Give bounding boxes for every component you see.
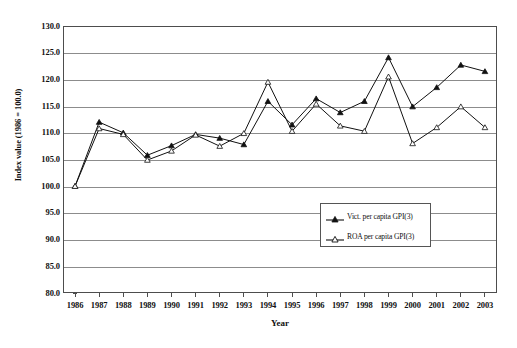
x-tick-mark <box>243 293 244 297</box>
y-tick-label: 125.0 <box>18 48 60 57</box>
x-axis-title: Year <box>63 318 497 328</box>
open-triangle-marker-icon <box>326 231 344 241</box>
open-triangle-marker-icon <box>386 74 392 79</box>
open-triangle-marker-icon <box>410 141 416 146</box>
open-triangle-marker-icon <box>265 79 271 84</box>
x-tick-mark <box>195 293 196 297</box>
open-triangle-marker-icon <box>241 131 247 136</box>
data-series-layer <box>63 26 497 293</box>
series-line <box>75 58 485 187</box>
open-triangle-marker-icon <box>169 148 175 153</box>
y-axis-title: Index value (1986 = 100.0) <box>13 45 23 225</box>
open-triangle-marker-icon <box>313 101 319 106</box>
filled-triangle-marker-icon <box>169 143 175 148</box>
filled-triangle-marker-icon <box>313 96 319 101</box>
y-tick-label: 115.0 <box>18 102 60 111</box>
y-tick-label: 95.0 <box>18 208 60 217</box>
x-tick-mark <box>75 293 76 297</box>
x-tick-mark <box>292 293 293 297</box>
y-tick-label: 130.0 <box>18 22 60 31</box>
chart-legend: Vict. per capita GPI(3) ROA per capita G… <box>320 203 431 247</box>
y-tick-label: 110.0 <box>18 128 60 137</box>
x-tick-mark <box>364 293 365 297</box>
legend-label-roa: ROA per capita GPI(3) <box>347 232 414 241</box>
filled-triangle-marker-icon <box>458 62 464 67</box>
x-tick-mark <box>460 293 461 297</box>
filled-triangle-marker-icon <box>362 99 368 104</box>
chart-page: 130.0125.0120.0115.0110.0105.0100.095.09… <box>0 0 517 348</box>
y-tick-label: 105.0 <box>18 155 60 164</box>
x-tick-label: 2003 <box>465 301 505 310</box>
legend-item-vict: Vict. per capita GPI(3) <box>326 209 413 223</box>
y-tick-label: 85.0 <box>18 262 60 271</box>
filled-triangle-marker-icon <box>326 211 344 221</box>
x-tick-mark <box>171 293 172 297</box>
filled-triangle-marker-icon <box>96 119 102 124</box>
x-tick-mark <box>219 293 220 297</box>
open-triangle-marker-icon <box>217 143 223 148</box>
open-triangle-marker-icon <box>458 104 464 109</box>
open-triangle-marker-icon <box>72 184 78 189</box>
x-tick-mark <box>99 293 100 297</box>
legend-item-roa: ROA per capita GPI(3) <box>326 229 414 243</box>
x-tick-mark <box>412 293 413 297</box>
legend-label-vict: Vict. per capita GPI(3) <box>347 212 413 221</box>
x-tick-mark <box>340 293 341 297</box>
x-tick-mark <box>388 293 389 297</box>
y-tick-label: 80.0 <box>18 289 60 298</box>
filled-triangle-marker-icon <box>265 99 271 104</box>
y-tick-label: 90.0 <box>18 235 60 244</box>
y-tick-label: 100.0 <box>18 182 60 191</box>
series-line <box>75 77 485 186</box>
x-tick-mark <box>123 293 124 297</box>
filled-triangle-marker-icon <box>386 55 392 60</box>
filled-triangle-marker-icon <box>337 110 343 115</box>
x-axis-ticks: 1986198719881989199019911992199319941995… <box>63 293 497 315</box>
y-tick-label: 120.0 <box>18 75 60 84</box>
x-tick-mark <box>484 293 485 297</box>
x-tick-mark <box>147 293 148 297</box>
x-tick-mark <box>267 293 268 297</box>
x-tick-mark <box>316 293 317 297</box>
x-tick-mark <box>436 293 437 297</box>
